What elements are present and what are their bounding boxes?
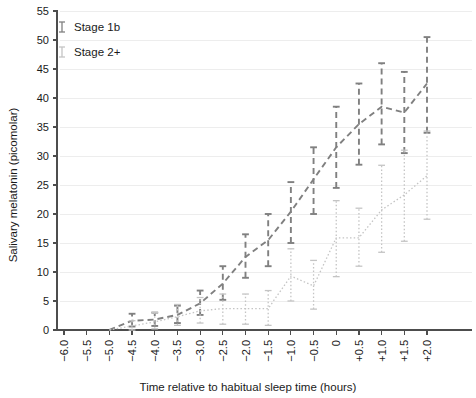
y-tick-label: 25 (37, 179, 49, 191)
x-tick-label: +2.0 (421, 340, 433, 362)
series-line (109, 84, 427, 331)
legend-label: Stage 1b (74, 21, 120, 33)
chart-svg: 0510152025303540455055 −6.0−5.5−5.0−4.5−… (0, 0, 476, 398)
series-1 (109, 37, 430, 330)
x-tick-label: 0 (330, 340, 342, 346)
x-tick-label: −5.5 (81, 340, 93, 362)
y-tick-label: 20 (37, 208, 49, 220)
legend-label: Stage 2+ (74, 46, 121, 58)
x-tick-label: −4.5 (126, 340, 138, 362)
x-tick-labels: −6.0−5.5−5.0−4.5−4.0−3.5−3.0−2.5−2.0−1.5… (58, 340, 433, 362)
y-tick-label: 40 (37, 92, 49, 104)
y-tick-label: 50 (37, 34, 49, 46)
x-tick-label: −0.5 (308, 340, 320, 362)
x-tick-label: −4.0 (149, 340, 161, 362)
legend-item-1: Stage 1b (59, 21, 120, 33)
axis-lines (57, 10, 472, 330)
x-tick-label: −3.0 (194, 340, 206, 362)
y-tick-label: 5 (43, 295, 49, 307)
x-tick-label: +1.0 (376, 340, 388, 362)
y-axis-title: Salivary melatonin (picomolar) (7, 107, 19, 262)
x-tick-label: −1.5 (262, 340, 274, 362)
y-tick-label: 55 (37, 5, 49, 17)
x-axis-title: Time relative to habitual sleep time (ho… (140, 381, 357, 393)
series-2 (109, 131, 430, 330)
x-tick-label: −6.0 (58, 340, 70, 362)
x-tick-label: +1.5 (398, 340, 410, 362)
x-tick-label: +0.5 (353, 340, 365, 362)
y-tick-label: 10 (37, 266, 49, 278)
y-tick-labels: 0510152025303540455055 (37, 5, 49, 336)
y-tick-label: 0 (43, 324, 49, 336)
y-tick-label: 30 (37, 150, 49, 162)
x-tick-label: −2.0 (240, 340, 252, 362)
melatonin-chart: 0510152025303540455055 −6.0−5.5−5.0−4.5−… (0, 0, 476, 398)
x-tick-label: −1.0 (285, 340, 297, 362)
y-tick-label: 35 (37, 121, 49, 133)
gridlines (60, 11, 472, 301)
x-tick-label: −5.0 (103, 340, 115, 362)
legend-item-2: Stage 2+ (59, 46, 121, 58)
y-tick-label: 45 (37, 63, 49, 75)
x-tick-label: −3.5 (171, 340, 183, 362)
x-tick-label: −2.5 (217, 340, 229, 362)
data-series-layer (109, 37, 430, 330)
y-tick-label: 15 (37, 237, 49, 249)
